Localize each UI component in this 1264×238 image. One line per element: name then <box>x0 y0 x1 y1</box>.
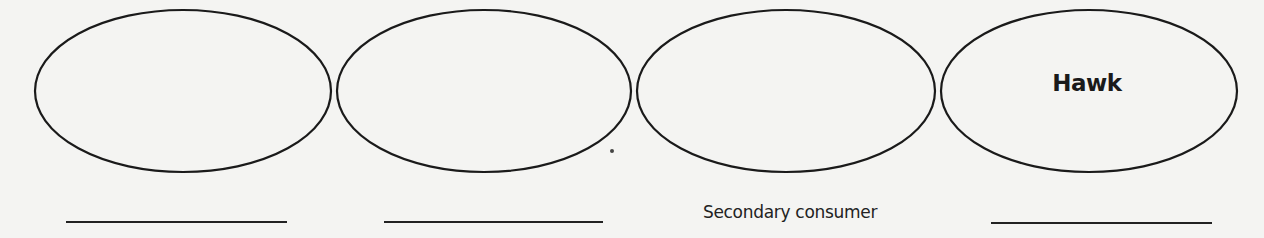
oval-1 <box>35 10 331 172</box>
answer-line-2[interactable] <box>384 221 603 223</box>
stray-dot <box>610 149 614 153</box>
answer-line-1[interactable] <box>66 221 287 223</box>
diagram-shapes <box>0 0 1264 238</box>
food-chain-diagram: Hawk Secondary consumer <box>0 0 1264 238</box>
oval-4-label: Hawk <box>1052 70 1121 96</box>
oval-3 <box>637 10 935 172</box>
oval-2 <box>337 10 631 172</box>
answer-line-4[interactable] <box>991 222 1212 224</box>
oval-3-caption: Secondary consumer <box>703 202 877 222</box>
